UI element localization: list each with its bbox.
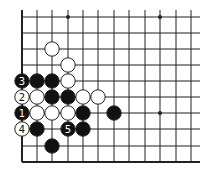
black-stone <box>61 90 75 104</box>
black-stone-icon <box>45 139 59 153</box>
black-stone <box>107 106 121 120</box>
white-stone <box>61 74 75 88</box>
white-stone-icon <box>61 74 75 88</box>
white-stone-icon <box>91 90 105 104</box>
white-stone <box>76 90 90 104</box>
move-number-label: 1 <box>19 108 25 119</box>
black-stone <box>45 90 59 104</box>
move-number-label: 5 <box>65 124 71 135</box>
stones: 32145 <box>15 42 121 153</box>
black-stone <box>45 139 59 153</box>
black-stone <box>76 122 90 136</box>
white-stone <box>91 90 105 104</box>
black-stone <box>30 122 44 136</box>
black-stone <box>30 74 44 88</box>
white-stone-icon <box>45 42 59 56</box>
white-stone <box>30 90 44 104</box>
black-stone-icon <box>76 106 90 120</box>
white-stone-icon <box>61 106 75 120</box>
white-stone-2: 2 <box>15 90 29 104</box>
white-stone <box>30 106 44 120</box>
white-stone-icon <box>76 90 90 104</box>
black-stone-1: 1 <box>15 106 29 120</box>
black-stone-icon <box>107 106 121 120</box>
black-stone-icon <box>76 122 90 136</box>
move-number-label: 2 <box>19 92 25 103</box>
black-stone-icon <box>30 74 44 88</box>
white-stone-icon <box>61 58 75 72</box>
white-stone-icon <box>30 106 44 120</box>
star-point-icon <box>158 111 162 115</box>
move-number-label: 3 <box>19 76 25 87</box>
go-board: 32145 <box>0 0 214 178</box>
white-stone <box>45 106 59 120</box>
move-number-label: 4 <box>19 124 25 135</box>
black-stone <box>76 106 90 120</box>
white-stone <box>61 58 75 72</box>
black-stone-icon <box>30 122 44 136</box>
star-point-icon <box>66 15 70 19</box>
black-stone-icon <box>45 74 59 88</box>
black-stone-3: 3 <box>15 74 29 88</box>
black-stone-icon <box>45 90 59 104</box>
black-stone <box>45 74 59 88</box>
white-stone <box>61 106 75 120</box>
star-point-icon <box>158 15 162 19</box>
white-stone-4: 4 <box>15 122 29 136</box>
black-stone-5: 5 <box>61 122 75 136</box>
white-stone <box>45 42 59 56</box>
white-stone-icon <box>30 90 44 104</box>
white-stone-icon <box>45 106 59 120</box>
black-stone-icon <box>61 90 75 104</box>
